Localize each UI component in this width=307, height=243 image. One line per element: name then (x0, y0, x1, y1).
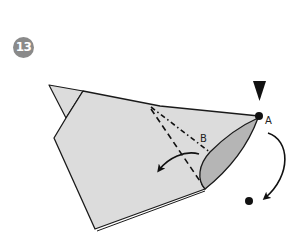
origami-diagram: A B (0, 0, 307, 243)
point-b-label: B (200, 133, 207, 144)
point-a-dot (255, 112, 263, 120)
push-down-triangle-icon (253, 81, 266, 101)
point-a-label: A (265, 115, 272, 126)
swing-arrow-icon (265, 133, 285, 198)
destination-dot (245, 197, 253, 205)
